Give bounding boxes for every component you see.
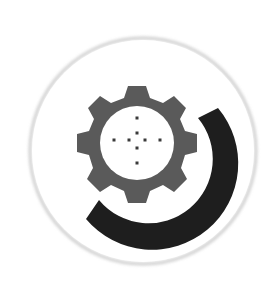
- icon-canvas: [0, 0, 280, 297]
- gear-logo-icon: [0, 0, 280, 297]
- gear-icon: [77, 86, 197, 203]
